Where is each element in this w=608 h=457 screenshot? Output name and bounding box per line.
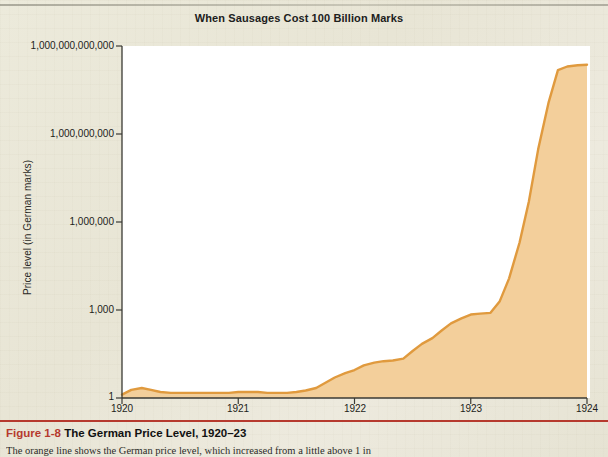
- price-level-area-fill: [122, 65, 587, 398]
- figure-caption: Figure 1-8 The German Price Level, 1920–…: [6, 426, 602, 457]
- caption-heading: Figure 1-8 The German Price Level, 1920–…: [6, 426, 602, 441]
- caption-figure-number: Figure 1-8: [6, 427, 61, 439]
- series-area-group: [122, 65, 587, 398]
- figure-container: When Sausages Cost 100 Billion Marks Pri…: [0, 0, 608, 457]
- caption-body-text: The orange line shows the German price l…: [6, 444, 602, 457]
- caption-divider: [0, 420, 608, 422]
- caption-figure-title: The German Price Level, 1920–23: [64, 427, 246, 439]
- chart-graphic: [0, 0, 608, 457]
